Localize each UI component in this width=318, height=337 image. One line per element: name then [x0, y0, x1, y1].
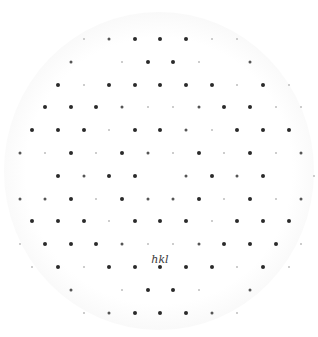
diffraction-spot [210, 174, 214, 178]
diffraction-spot [198, 106, 201, 109]
diffraction-spot [146, 288, 150, 292]
diffraction-spot [120, 197, 124, 201]
diffraction-spot [184, 37, 188, 41]
diffraction-spot [44, 198, 47, 201]
diffraction-spot [248, 105, 252, 109]
diffraction-spot [184, 83, 188, 87]
diffraction-spot [56, 83, 60, 87]
diffraction-spot [83, 38, 85, 40]
diffraction-spot [30, 219, 34, 223]
diffraction-spot [121, 289, 123, 291]
diffraction-spot [172, 198, 175, 201]
diffraction-spot [210, 83, 214, 87]
hkl-label: hkl [151, 253, 168, 266]
diffraction-spot [261, 174, 265, 178]
diffraction-spot [69, 151, 73, 155]
diffraction-spot [43, 105, 47, 109]
diffraction-spot [300, 106, 302, 108]
diffraction-spot [83, 84, 85, 86]
diffraction-spot [211, 129, 213, 131]
diffraction-spot [147, 243, 149, 245]
diffraction-spot [261, 219, 265, 223]
diffraction-spot [288, 266, 290, 268]
diffraction-spot [56, 174, 60, 178]
diffraction-spot [108, 129, 110, 131]
diffraction-spot [275, 106, 277, 108]
diffraction-spot [158, 265, 162, 269]
diffraction-spot [222, 242, 226, 246]
diffraction-spot [223, 152, 225, 154]
diffraction-spot [121, 243, 124, 246]
diffraction-spot [261, 265, 265, 269]
diffraction-spot [313, 175, 315, 177]
diffraction-spot [31, 266, 33, 268]
diffraction-spot [211, 220, 213, 222]
diffraction-spot [287, 219, 291, 223]
diffraction-spot [83, 266, 85, 268]
diffraction-spot [236, 266, 238, 268]
diffraction-spot [133, 174, 137, 178]
diffraction-spot [171, 60, 175, 64]
diffraction-pattern: hkl [0, 0, 318, 337]
diffraction-spot [44, 152, 46, 154]
diffraction-spot [223, 198, 225, 200]
diffraction-spot [121, 61, 123, 63]
diffraction-spot [83, 312, 85, 314]
diffraction-spot [94, 242, 98, 246]
diffraction-spot [19, 243, 21, 245]
diffraction-spot [211, 312, 214, 315]
diffraction-spot [95, 152, 97, 154]
diffraction-spot [147, 198, 150, 201]
diffraction-spot [30, 128, 34, 132]
diffraction-spot [198, 61, 200, 63]
diffraction-spot [185, 175, 188, 178]
diffraction-spot [133, 265, 137, 269]
diffraction-spot [172, 152, 174, 154]
diffraction-spot [158, 311, 162, 315]
diffraction-spot [107, 265, 111, 269]
diffraction-spot [210, 265, 214, 269]
diffraction-spot [43, 242, 47, 246]
diffraction-spot [82, 128, 86, 132]
diffraction-spot [171, 288, 175, 292]
diffraction-spot [275, 198, 277, 200]
diffraction-spot [198, 289, 200, 291]
diffraction-spot [235, 219, 239, 223]
diffraction-spot [133, 83, 137, 87]
diffraction-spot [56, 219, 60, 223]
diffraction-spot [236, 312, 238, 314]
diffraction-spot [274, 242, 278, 246]
diffraction-spot [133, 128, 137, 132]
diffraction-spot [121, 106, 124, 109]
diffraction-spot [287, 128, 291, 132]
diffraction-spot [211, 38, 213, 40]
diffraction-spot [275, 152, 277, 154]
diffraction-spot [70, 289, 73, 292]
diffraction-spot [19, 152, 22, 155]
diffraction-spot [158, 83, 162, 87]
diffraction-spot [158, 37, 162, 41]
diffraction-spot [261, 83, 265, 87]
diffraction-spot [56, 128, 60, 132]
diffraction-spot [19, 198, 22, 201]
diffraction-spot [222, 105, 226, 109]
diffraction-spot [300, 152, 303, 155]
diffraction-spot [107, 174, 111, 178]
diffraction-spot [108, 220, 110, 222]
diffraction-spot [184, 265, 188, 269]
background-halo [4, 12, 314, 330]
diffraction-spot [288, 84, 290, 86]
diffraction-spot [147, 106, 149, 108]
diffraction-spot [56, 265, 60, 269]
diffraction-spot [108, 38, 111, 41]
diffraction-spot [108, 312, 111, 315]
diffraction-spot [248, 151, 252, 155]
diffraction-spot [147, 152, 150, 155]
diffraction-spot [69, 197, 73, 201]
diffraction-spot [236, 84, 238, 86]
diffraction-spot [158, 219, 162, 223]
diffraction-spot [82, 219, 86, 223]
diffraction-spot [172, 243, 174, 245]
diffraction-spot [261, 128, 265, 132]
diffraction-spot [120, 151, 124, 155]
